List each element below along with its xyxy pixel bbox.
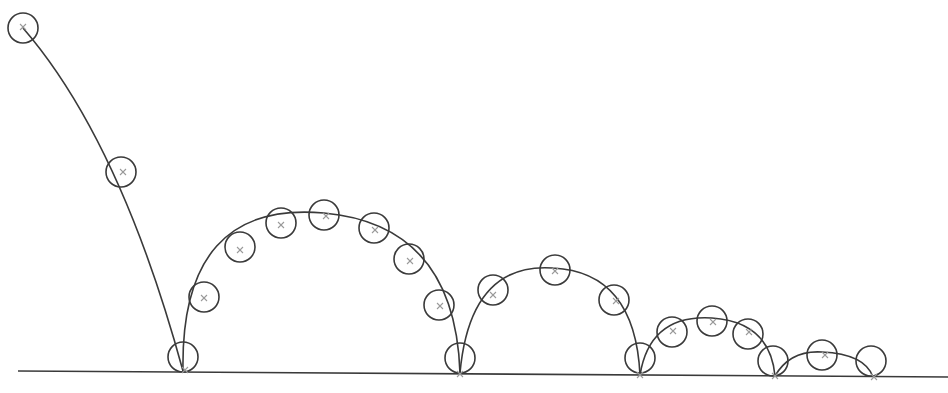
x-marker-icon	[407, 258, 413, 264]
x-marker-icon	[490, 292, 496, 298]
ball-circle	[599, 285, 629, 315]
x-marker-icon	[710, 319, 716, 325]
ball-circle	[807, 340, 837, 370]
position-markers	[20, 24, 877, 380]
ground-line	[18, 371, 948, 377]
x-marker-icon	[372, 227, 378, 233]
x-marker-icon	[278, 222, 284, 228]
x-marker-icon	[670, 328, 676, 334]
trajectory-arcs	[23, 28, 873, 377]
x-marker-icon	[120, 169, 126, 175]
ball-circle	[478, 275, 508, 305]
bouncing-ball-diagram	[0, 0, 948, 393]
ball-positions	[8, 13, 886, 376]
ball-circle	[266, 208, 296, 238]
x-marker-icon	[437, 303, 443, 309]
ball-circle	[733, 319, 763, 349]
ball-circle	[394, 244, 424, 274]
x-marker-icon	[201, 295, 207, 301]
trajectory-bounce-1	[183, 212, 460, 373]
ball-circle	[189, 282, 219, 312]
x-marker-icon	[237, 247, 243, 253]
trajectory-drop	[23, 28, 183, 371]
ball-circle	[225, 232, 255, 262]
x-marker-icon	[746, 329, 752, 335]
ball-circle	[106, 157, 136, 187]
